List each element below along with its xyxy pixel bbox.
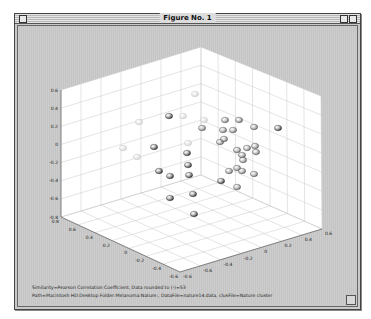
data-point [250,124,257,130]
svg-text:0: 0 [55,142,58,147]
svg-text:0.4: 0.4 [51,106,58,111]
svg-text:0.6: 0.6 [51,88,58,93]
data-point [200,117,207,123]
svg-text:-0.6: -0.6 [49,196,58,201]
svg-text:-0.6: -0.6 [169,274,178,279]
data-point [190,211,197,217]
figure-window: Figure No. 1 0.60.40.20-0.2-0.4-0.6-0.80… [14,13,361,310]
svg-text:0.4: 0.4 [305,237,312,242]
svg-text:-0.2: -0.2 [244,256,253,261]
svg-text:-0.2: -0.2 [49,160,58,165]
resize-grow-box[interactable] [346,295,356,305]
svg-text:-0.2: -0.2 [135,258,144,263]
svg-text:0.6: 0.6 [325,231,332,236]
svg-text:0.2: 0.2 [103,243,110,248]
scatter-3d-plot: 0.60.40.20-0.2-0.4-0.6-0.80.80.60.40.20-… [2,2,371,319]
data-point [233,147,240,153]
data-point [250,171,257,177]
data-point [191,91,198,97]
data-point [166,195,173,201]
data-point [198,125,205,131]
data-point [135,119,142,125]
data-point [225,168,232,174]
data-point [183,150,190,156]
data-point [119,145,126,151]
data-point [229,127,236,133]
data-point [184,162,191,168]
svg-text:0.2: 0.2 [51,124,58,129]
svg-text:-0.6: -0.6 [183,274,192,279]
figure-canvas: 0.60.40.20-0.2-0.4-0.6-0.80.80.60.40.20-… [17,25,358,307]
svg-text:0: 0 [124,250,127,255]
data-point [243,145,250,151]
data-point [150,144,157,150]
data-point [233,184,240,190]
data-point [179,113,186,119]
data-point [239,157,246,163]
svg-text:0.2: 0.2 [284,243,291,248]
svg-text:0: 0 [264,249,267,254]
data-point [217,178,224,184]
svg-text:0.8: 0.8 [52,219,59,224]
data-point [165,113,172,119]
svg-text:-0.6: -0.6 [203,268,212,273]
svg-text:0.4: 0.4 [86,235,93,240]
svg-text:-0.4: -0.4 [152,266,161,271]
data-point [133,154,140,160]
data-point [185,172,192,178]
data-point [238,168,245,174]
svg-text:0.6: 0.6 [69,227,76,232]
svg-text:-0.4: -0.4 [49,178,58,183]
data-point [235,117,242,123]
caption-path: Path=Macintosh HD:Desktop Folder:Melanom… [32,293,272,298]
caption-similarity: Similarity=Pearson Correlation Coefficie… [32,285,186,290]
data-point [251,143,258,149]
data-point [155,168,162,174]
data-point [166,173,173,179]
data-point [252,149,259,155]
data-point [274,125,281,131]
data-point [189,191,196,197]
svg-text:-0.4: -0.4 [224,262,233,267]
data-point [219,127,226,133]
data-point [238,152,245,158]
data-point [220,136,227,142]
data-point [184,140,191,146]
data-point [221,117,228,123]
